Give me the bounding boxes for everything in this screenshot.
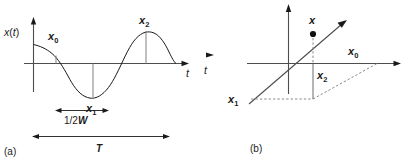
dimension-total-duration: T [32,134,170,154]
dimension-label-half-w: 1/2W [64,115,89,126]
y-axis-arrowhead [31,17,36,25]
panel-a-y-axis [31,17,36,92]
coordinate-label-x2: x2 [316,69,327,84]
figure-svg: x(t) t x0 x1 x2 [0,0,412,165]
signal-point-marker [310,31,316,37]
sample-marker-x1: x1 [85,64,96,117]
sample-interval-right-arrowhead [103,108,110,113]
coordinate-label-x0: x0 [347,45,358,60]
panel-b: x x0 x1 x2 t (b) [204,4,401,154]
coordinate-label-x1: x1 [227,93,238,108]
sample-interval-left-arrowhead [55,108,62,113]
x-axis-arrowhead [182,61,190,66]
panel-b-t-axis-marker: t [204,52,214,76]
panel-b-vertical-axis [286,4,291,94]
sample-label-x0: x0 [47,30,58,45]
panel-b-t-axis-label: t [204,64,208,76]
duration-left-arrowhead [32,134,39,139]
panel-b-vertical-arrowhead [286,4,291,12]
projection-parallelogram [251,63,378,99]
t-axis-arrowhead [206,52,214,57]
signal-point-label: x [308,14,316,26]
sample-marker-x2: x2 [138,14,149,64]
duration-right-arrowhead [163,134,170,139]
dimension-sample-interval: 1/2W [55,108,109,126]
panel-b-caption: (b) [250,143,262,154]
panel-b-horizontal-axis [247,61,401,66]
panel-b-horizontal-arrowhead [394,61,402,66]
dimension-label-t: T [96,143,103,154]
panel-a: x(t) t x0 x1 x2 [3,14,190,157]
panel-a-y-axis-label: x(t) [3,26,19,38]
panel-a-caption: (a) [4,146,16,157]
panel-b-oblique-axis [249,20,347,104]
panel-a-x-axis-label: t [186,67,190,79]
sample-label-x2: x2 [138,14,149,29]
figure-root: x(t) t x0 x1 x2 [0,0,412,165]
panel-a-x-axis [24,61,189,66]
